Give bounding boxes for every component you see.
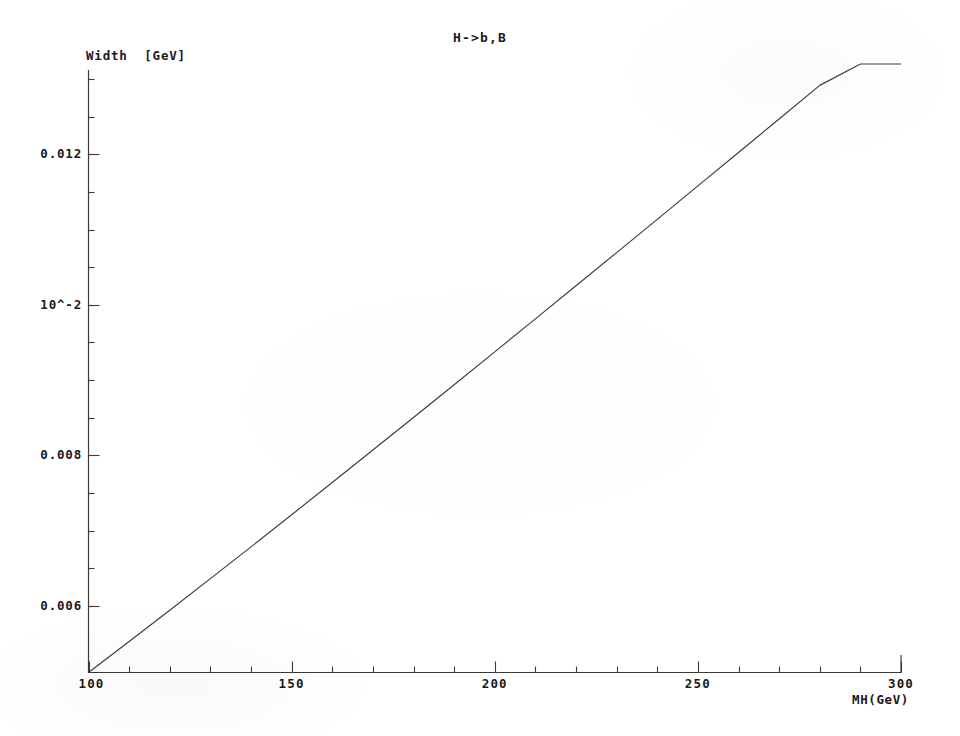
x-tick-label: 150: [262, 676, 322, 691]
y-tick-label: 10^-2: [24, 297, 82, 312]
y-axis-ticks: [89, 80, 100, 607]
x-tick-label: 200: [465, 676, 525, 691]
plot-axes: [0, 0, 960, 736]
plot-figure: H->b,B Width [GeV] MH(GeV) 0.0060.00810^…: [0, 0, 960, 736]
y-tick-label: 0.008: [24, 447, 82, 462]
y-tick-label: 0.006: [24, 598, 82, 613]
x-tick-label: 300: [871, 676, 931, 691]
x-tick-label: 100: [62, 676, 122, 691]
x-axis-ticks: [90, 662, 902, 673]
axis-lines: [88, 70, 902, 673]
series-line-width: [89, 64, 902, 673]
data-series-layer: [89, 64, 902, 673]
y-tick-label: 0.012: [24, 146, 82, 161]
x-tick-label: 250: [668, 676, 728, 691]
